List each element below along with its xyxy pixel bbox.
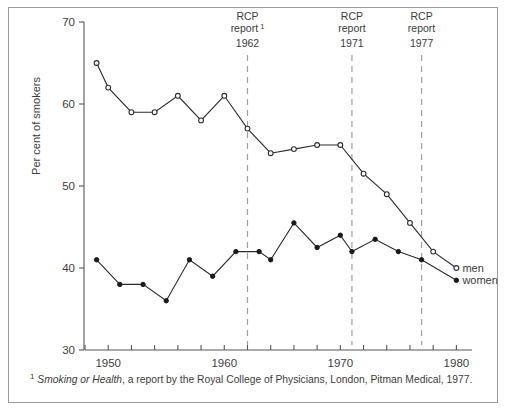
data-point-men <box>361 171 366 176</box>
data-point-men <box>268 151 273 156</box>
data-point-men <box>292 147 297 152</box>
data-point-men <box>454 266 459 271</box>
legend-label-men: men <box>462 262 483 274</box>
annotation-line1-1977: RCP <box>410 10 432 22</box>
legend-label-women: women <box>461 274 497 286</box>
footnote: 1 Smoking or Health, a report by the Roy… <box>30 372 485 387</box>
data-point-women <box>210 274 214 278</box>
data-point-men <box>152 110 157 115</box>
chart-figure: 3040506070Per cent of smokers19501960197… <box>0 0 507 411</box>
data-point-women <box>164 299 168 303</box>
annotation-year-1977: 1977 <box>410 37 434 49</box>
data-point-women <box>187 258 191 262</box>
footnote-marker: 1 <box>30 372 34 381</box>
footnote-title: Smoking or Health <box>37 374 122 385</box>
data-point-men <box>129 110 134 115</box>
y-axis-tick-label: 30 <box>62 344 75 356</box>
data-point-women <box>454 278 458 282</box>
annotation-footnote-marker-1962: 1 <box>258 22 264 31</box>
x-axis-tick-label: 1970 <box>328 357 354 369</box>
data-point-women <box>269 258 273 262</box>
data-point-women <box>338 233 342 237</box>
annotation-year-1962: 1962 <box>236 37 260 49</box>
data-point-women <box>234 249 238 253</box>
data-point-women <box>292 221 296 225</box>
data-point-women <box>373 237 377 241</box>
data-point-women <box>257 249 261 253</box>
annotation-year-1971: 1971 <box>340 37 364 49</box>
y-axis-tick-label: 50 <box>62 180 75 192</box>
x-axis-tick-label: 1960 <box>211 357 237 369</box>
data-point-men <box>199 118 204 123</box>
data-point-men <box>106 85 111 90</box>
data-point-men <box>245 126 250 131</box>
data-point-women <box>350 249 354 253</box>
annotation-line1-1971: RCP <box>341 10 363 22</box>
data-point-men <box>94 61 99 66</box>
data-point-men <box>384 192 389 197</box>
data-point-men <box>408 221 413 226</box>
annotation-line1-1962: RCP <box>236 10 258 22</box>
annotation-line2-1971: report <box>338 22 366 34</box>
data-point-women <box>315 245 319 249</box>
series-line-men <box>97 63 457 268</box>
data-point-men <box>431 249 436 254</box>
data-point-men <box>338 143 343 148</box>
data-point-women <box>94 258 98 262</box>
line-chart-canvas: 3040506070Per cent of smokers19501960197… <box>0 0 507 411</box>
footnote-text: , a report by the Royal College of Physi… <box>122 374 472 385</box>
data-point-women <box>396 249 400 253</box>
y-axis-tick-label: 70 <box>62 16 75 28</box>
x-axis-tick-label: 1980 <box>444 357 470 369</box>
y-axis-tick-label: 40 <box>62 262 75 274</box>
data-point-men <box>222 93 227 98</box>
annotation-line2-1977: report <box>408 22 436 34</box>
y-axis-title: Per cent of smokers <box>30 77 42 175</box>
data-point-women <box>141 282 145 286</box>
data-point-women <box>419 258 423 262</box>
x-axis-tick-label: 1950 <box>95 357 121 369</box>
data-point-men <box>315 143 320 148</box>
data-point-men <box>175 93 180 98</box>
y-axis-tick-label: 60 <box>62 98 75 110</box>
annotation-line2-1962: report 1 <box>231 22 265 34</box>
data-point-women <box>118 282 122 286</box>
series-line-women <box>97 223 457 301</box>
